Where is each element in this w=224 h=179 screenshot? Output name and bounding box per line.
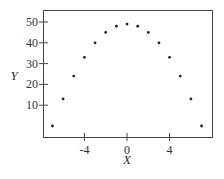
data-point (83, 56, 86, 59)
data-point (51, 125, 54, 128)
data-point (104, 31, 107, 34)
data-point (147, 31, 150, 34)
plot-frame (44, 11, 213, 138)
y-tick-label: 20 (26, 77, 38, 91)
data-point (158, 41, 161, 44)
data-point (72, 75, 75, 78)
data-point (115, 25, 118, 28)
x-axis-label: X (122, 152, 132, 167)
y-axis-ticks: 1020304050 (26, 15, 48, 112)
y-tick-label: 30 (26, 57, 38, 71)
data-point (94, 41, 97, 44)
data-point (62, 98, 65, 101)
y-tick-label: 40 (26, 36, 38, 50)
data-point (136, 25, 139, 28)
x-tick-label: -4 (79, 143, 89, 157)
data-point (200, 125, 203, 128)
scatter-chart: 1020304050 -404 X Y (0, 0, 224, 179)
y-tick-label: 10 (26, 98, 38, 112)
y-tick-label: 50 (26, 15, 38, 29)
y-axis-label: Y (10, 68, 19, 83)
data-point (190, 98, 193, 101)
data-point (168, 56, 171, 59)
data-points (51, 23, 203, 128)
data-point (179, 75, 182, 78)
data-point (126, 23, 129, 26)
x-tick-label: 4 (167, 143, 173, 157)
